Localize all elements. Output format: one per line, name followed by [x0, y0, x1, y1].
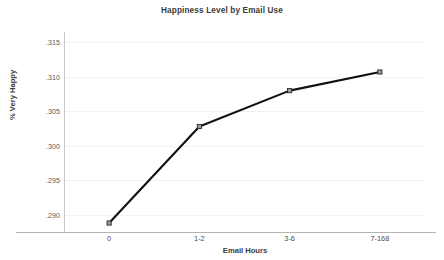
data-point-marker [107, 221, 111, 225]
data-point-marker [288, 89, 292, 93]
series-line [109, 72, 380, 223]
chart-container: Happiness Level by Email Use % Very Happ… [0, 0, 444, 260]
data-point-marker [197, 124, 201, 128]
data-series-layer [0, 0, 444, 260]
x-axis-title: Email Hours [64, 246, 426, 255]
data-point-marker [378, 70, 382, 74]
